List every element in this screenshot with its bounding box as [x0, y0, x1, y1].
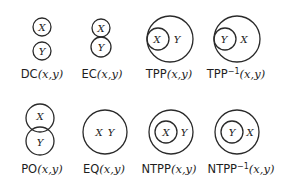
relation-label: NTPP(x,y): [141, 162, 196, 176]
relation-ntpp: X Y NTPP(x,y): [141, 110, 196, 176]
relation-tpp-inverse: Y X TPP−1(x,y): [206, 16, 265, 81]
var-label: X: [94, 127, 103, 138]
relation-label: TPP−1(x,y): [206, 67, 265, 81]
var-label: Y: [108, 127, 116, 138]
relation-label: DC(x,y): [21, 67, 64, 81]
relation-label: TPP(x,y): [145, 67, 193, 81]
relation-ntpp-inverse: Y X NTPP−1(x,y): [208, 110, 275, 176]
var-label: X: [245, 127, 254, 138]
relation-label: EC(x,y): [82, 67, 123, 81]
relation-label: NTPP−1(x,y): [208, 162, 275, 176]
relation-po: X Y PO(x,y): [21, 104, 63, 176]
var-label: X: [37, 22, 46, 33]
var-label: X: [35, 111, 44, 122]
var-label: Y: [98, 42, 106, 53]
var-label: X: [161, 127, 170, 138]
var-label: Y: [181, 127, 189, 138]
relation-dc: X Y DC(x,y): [21, 18, 64, 81]
var-label: Y: [174, 34, 182, 45]
var-label: X: [96, 23, 105, 34]
relation-eq: X Y EQ(x,y): [83, 110, 127, 176]
relation-ec: X Y EC(x,y): [82, 19, 123, 81]
var-label: X: [152, 34, 161, 45]
rcc8-diagram: X Y DC(x,y) X Y EC(x,y) X Y TPP(x,y) Y X…: [0, 0, 289, 184]
region-xy-circle: [83, 110, 127, 154]
var-label: X: [239, 34, 248, 45]
var-label: Y: [229, 127, 237, 138]
var-label: Y: [39, 46, 47, 57]
relation-label: EQ(x,y): [83, 162, 125, 176]
var-label: Y: [221, 34, 229, 45]
relation-label: PO(x,y): [21, 162, 63, 176]
var-label: Y: [37, 137, 45, 148]
relation-tpp: X Y TPP(x,y): [145, 16, 193, 81]
